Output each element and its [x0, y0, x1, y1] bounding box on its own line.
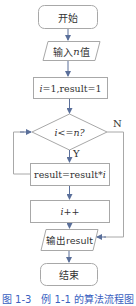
cond-q: ? — [80, 127, 85, 138]
init-node-text: =1,result=1 — [43, 83, 102, 94]
output-node: 输出result — [41, 229, 98, 251]
output-node-label: 输出result — [46, 233, 93, 247]
input-node-prefix: 输入 — [53, 44, 73, 59]
condition-node: i<=n? — [32, 122, 107, 142]
end-node-label: 结束 — [59, 267, 79, 282]
mult-node-text: result=result* — [34, 169, 103, 180]
multiply-node: result=result*i — [30, 163, 110, 186]
incr-node-op: ++ — [64, 206, 80, 217]
cond-op: <= — [57, 127, 73, 138]
no-label: N — [113, 118, 122, 129]
start-node-label: 开始 — [58, 10, 78, 25]
end-node: 结束 — [40, 263, 98, 286]
figure-caption: 图 1-3 例 1-1 的算法流程图 — [0, 291, 136, 306]
yes-label: Y — [73, 148, 80, 159]
init-node: i=1,result=1 — [33, 77, 108, 99]
start-node: 开始 — [38, 5, 98, 29]
mult-node-var: i — [103, 169, 106, 180]
loop-back-line — [14, 132, 31, 174]
increment-node: i++ — [30, 200, 110, 223]
input-node-suffix: 值 — [80, 44, 90, 59]
input-node: 输入n值 — [43, 41, 100, 61]
